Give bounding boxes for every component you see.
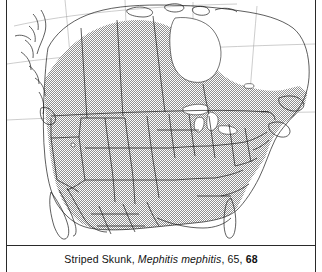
frame-rule-right [315,0,316,272]
caption-scientific-name: Mephitis mephitis [138,253,222,265]
caption-page-reference-bold: 68 [246,253,258,265]
figure-caption: Striped Skunk, Mephitis mephitis, 65, 68 [7,246,315,271]
caption-page-reference-plain: 65 [228,253,240,265]
great-salt-lake [71,143,75,147]
lake-melville [244,84,254,89]
caption-text-line: Striped Skunk, Mephitis mephitis, 65, 68 [64,253,257,265]
range-map-figure: Striped Skunk, Mephitis mephitis, 65, 68 [0,0,322,272]
north-america-range-map [7,0,315,245]
caption-common-name: Striped Skunk [64,253,131,265]
map-plate [7,0,315,245]
